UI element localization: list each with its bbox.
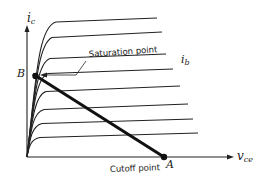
ib-label: ib — [181, 53, 190, 67]
x-axis-arrow-icon — [227, 155, 234, 160]
transistor-characteristics-diagram: ic vce ib B A Saturation point Cutoff po… — [0, 0, 262, 184]
ib-curve-2 — [27, 119, 193, 157]
point-b-label: B — [16, 67, 25, 80]
ib-curve-1 — [27, 133, 198, 157]
saturation-label: Saturation point — [88, 44, 158, 59]
x-axis-label: vce — [237, 149, 253, 164]
cutoff-label: Cutoff point — [110, 162, 161, 174]
point-a-label: A — [165, 158, 174, 171]
ib-curve-3 — [27, 104, 188, 157]
y-axis-label: ic — [27, 11, 36, 26]
load-line — [33, 74, 164, 157]
point-b-dot — [32, 73, 38, 79]
y-axis-arrow-icon — [25, 25, 30, 32]
ib-curve-5 — [27, 69, 173, 157]
